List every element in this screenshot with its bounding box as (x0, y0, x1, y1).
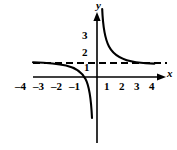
x-axis-arrow (157, 73, 166, 80)
y-tick-label-1: 1 (84, 62, 90, 73)
y-axis-label: y (96, 0, 101, 11)
x-tick-label-2: 2 (119, 81, 125, 92)
curve-right-branch (102, 9, 154, 64)
x-tick-label-neg2: –2 (51, 81, 62, 92)
x-tick-label-neg4: –4 (15, 81, 26, 92)
x-tick-label-1: 1 (104, 81, 110, 92)
x-tick-label-3: 3 (134, 81, 140, 92)
x-tick-label-4: 4 (149, 81, 155, 92)
x-tick-label-neg1: –1 (69, 81, 80, 92)
y-tick-label-2: 2 (82, 47, 88, 58)
y-tick-label-3: 3 (82, 30, 88, 41)
graph-figure: y x 3 2 1 –4 –3 –2 –1 1 2 3 4 (0, 0, 177, 150)
plot-area (0, 0, 177, 150)
x-axis-label: x (167, 68, 173, 79)
x-tick-label-neg3: –3 (33, 81, 44, 92)
y-axis-arrow (93, 12, 100, 21)
